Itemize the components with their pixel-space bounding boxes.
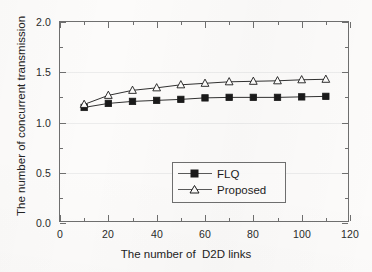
y-tick-1.0 [60, 123, 66, 124]
y-tick-label-1.0: 1.0 [36, 117, 51, 129]
data-point [250, 94, 256, 100]
x-axis-title: The number of D2D links [0, 248, 372, 260]
x-tick-120 [350, 215, 351, 221]
legend-marker-open-triangle [178, 183, 212, 197]
x-tick-top-40 [157, 22, 158, 28]
data-point [298, 76, 306, 83]
x-minor-tick-top [181, 22, 182, 25]
chart-page: 0.00.51.01.52.0020406080100120 The numbe… [0, 0, 372, 272]
data-point [322, 75, 330, 82]
x-tick-label-100: 100 [293, 228, 311, 240]
x-tick-top-100 [302, 22, 303, 28]
x-minor-tick [181, 218, 182, 221]
data-point [323, 93, 329, 99]
y-minor-tick [60, 198, 63, 199]
x-tick-label-120: 120 [341, 228, 359, 240]
x-tick-label-40: 40 [151, 228, 163, 240]
x-tick-60 [205, 215, 206, 221]
x-tick-label-80: 80 [247, 228, 259, 240]
data-point [105, 100, 111, 106]
data-point [274, 77, 282, 84]
chart-legend[interactable]: FLQ Proposed [172, 162, 286, 203]
series-flq [81, 93, 329, 110]
x-minor-tick [133, 218, 134, 221]
y-tick-right-2.0 [342, 22, 348, 23]
y-tick-1.5 [60, 72, 66, 73]
y-minor-tick-right [345, 97, 348, 98]
y-minor-tick-right [345, 148, 348, 149]
y-tick-label-0.0: 0.0 [36, 217, 51, 229]
legend-item-proposed[interactable]: Proposed [178, 182, 280, 198]
x-tick-100 [302, 215, 303, 221]
x-tick-0 [60, 215, 61, 221]
x-tick-top-60 [205, 22, 206, 28]
x-tick-top-20 [108, 22, 109, 28]
x-minor-tick-top [326, 22, 327, 25]
data-point [225, 78, 233, 85]
x-tick-label-0: 0 [57, 228, 63, 240]
x-minor-tick [278, 218, 279, 221]
legend-item-flq[interactable]: FLQ [178, 166, 280, 182]
x-minor-tick [84, 218, 85, 221]
x-minor-tick-top [229, 22, 230, 25]
y-tick-label-0.5: 0.5 [36, 167, 51, 179]
y-tick-label-2.0: 2.0 [36, 16, 51, 28]
x-tick-top-0 [60, 22, 61, 28]
y-axis-title: The number of concurrent transmission [15, 11, 27, 221]
data-point [153, 97, 159, 103]
y-tick-right-1.5 [342, 72, 348, 73]
y-minor-tick [60, 97, 63, 98]
y-tick-0.5 [60, 173, 66, 174]
legend-marker-filled-square [178, 167, 212, 181]
y-tick-right-0.5 [342, 173, 348, 174]
x-tick-80 [253, 215, 254, 221]
data-point [178, 96, 184, 102]
data-point [226, 94, 232, 100]
y-minor-tick [60, 148, 63, 149]
x-tick-top-80 [253, 22, 254, 28]
x-minor-tick [229, 218, 230, 221]
data-point [298, 94, 304, 100]
x-minor-tick [326, 218, 327, 221]
x-tick-20 [108, 215, 109, 221]
x-tick-top-120 [350, 22, 351, 28]
y-tick-0.0 [60, 223, 66, 224]
x-minor-tick-top [278, 22, 279, 25]
y-minor-tick [60, 47, 63, 48]
x-tick-40 [157, 215, 158, 221]
gridline-y-1.0 [60, 123, 348, 124]
x-minor-tick-top [84, 22, 85, 25]
data-point [129, 98, 135, 104]
data-point [202, 95, 208, 101]
y-tick-right-1.0 [342, 123, 348, 124]
y-tick-right-0.0 [342, 223, 348, 224]
legend-label-proposed: Proposed [217, 184, 266, 196]
x-tick-label-60: 60 [199, 228, 211, 240]
y-minor-tick-right [345, 47, 348, 48]
y-tick-label-1.5: 1.5 [36, 66, 51, 78]
legend-label-flq: FLQ [217, 168, 239, 180]
x-tick-label-20: 20 [102, 228, 114, 240]
gridline-y-1.5 [60, 72, 348, 73]
data-point [249, 77, 257, 84]
data-point [274, 94, 280, 100]
x-minor-tick-top [133, 22, 134, 25]
y-minor-tick-right [345, 198, 348, 199]
